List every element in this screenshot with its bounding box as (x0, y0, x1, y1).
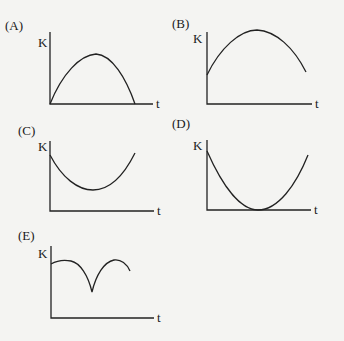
panel-e: (E) K t (18, 228, 161, 325)
y-axis-label-e: K (38, 246, 48, 261)
panel-label-b: (B) (172, 16, 189, 31)
x-axis-label-b: t (315, 96, 319, 111)
x-axis-label-e: t (157, 310, 161, 325)
panel-a: (A) K t (5, 18, 160, 111)
kinetic-energy-graphs-figure: (A) K t (B) K t (C) K t (D) K t (E) K t (0, 0, 344, 341)
curve-a (50, 54, 135, 104)
axes-e (51, 246, 154, 318)
panel-label-d: (D) (172, 116, 190, 131)
x-axis-label-a: t (156, 96, 160, 111)
panel-b: (B) K t (172, 16, 319, 111)
panel-label-a: (A) (5, 18, 23, 33)
panel-label-c: (C) (18, 123, 35, 138)
curve-e (51, 260, 130, 292)
curve-d (207, 151, 308, 210)
panel-d: (D) K t (172, 116, 318, 217)
axes-a (50, 32, 153, 104)
axes-b (207, 32, 312, 104)
panel-c: (C) K t (18, 123, 161, 218)
y-axis-label-b: K (193, 31, 203, 46)
y-axis-label-c: K (38, 139, 48, 154)
y-axis-label-a: K (38, 35, 48, 50)
y-axis-label-d: K (193, 138, 203, 153)
x-axis-label-c: t (157, 203, 161, 218)
curve-b (207, 30, 306, 75)
axes-d (207, 140, 311, 210)
curve-c (50, 153, 135, 190)
x-axis-label-d: t (314, 202, 318, 217)
panel-label-e: (E) (18, 228, 35, 243)
